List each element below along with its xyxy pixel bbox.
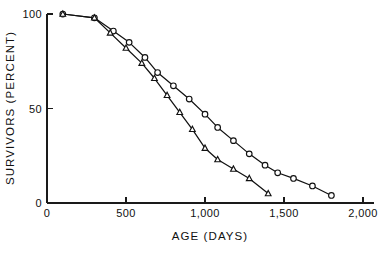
data-point-circle-5: [155, 70, 161, 76]
data-point-circle-8: [202, 111, 208, 117]
y-tick-label-0: 0: [35, 197, 42, 209]
data-point-circle-9: [215, 125, 221, 131]
series-triangle-series: [60, 11, 271, 196]
data-point-circle-15: [310, 183, 316, 189]
data-point-triangle-11: [231, 166, 237, 171]
data-point-triangle-12: [246, 175, 252, 180]
x-axis-title: AGE (DAYS): [172, 230, 249, 242]
chart-canvas: 050100 05001,0001,5002,000 AGE (DAYS) SU…: [0, 0, 386, 253]
x-tick-label-1500: 1,500: [269, 207, 299, 219]
series-circle-series: [60, 11, 334, 198]
series-path-triangle-series: [63, 14, 268, 194]
data-point-circle-16: [329, 193, 335, 199]
data-point-circle-14: [291, 176, 297, 182]
data-point-circle-13: [275, 170, 281, 176]
x-tick-label-500: 500: [116, 207, 136, 219]
x-axis-tick-labels: 05001,0001,5002,000: [44, 207, 378, 219]
x-tick-label-2000: 2,000: [348, 207, 378, 219]
data-point-circle-12: [262, 162, 268, 168]
data-point-circle-4: [142, 55, 148, 61]
x-tick-label-1000: 1,000: [190, 207, 220, 219]
data-series-layer: [60, 11, 334, 198]
data-point-circle-6: [171, 83, 177, 89]
series-path-circle-series: [63, 14, 332, 195]
y-axis-title: SURVIVORS (PERCENT): [4, 31, 16, 185]
y-tick-label-50: 50: [29, 103, 42, 115]
y-axis-ticks: [47, 14, 53, 203]
x-axis-ticks: [47, 197, 363, 203]
survival-chart-figure: 050100 05001,0001,5002,000 AGE (DAYS) SU…: [0, 0, 386, 253]
x-tick-label-0: 0: [44, 207, 51, 219]
data-point-circle-11: [246, 151, 252, 157]
y-axis-tick-labels: 050100: [22, 8, 42, 209]
data-point-circle-3: [126, 40, 132, 46]
data-point-circle-10: [231, 138, 237, 144]
y-tick-label-100: 100: [22, 8, 42, 20]
data-point-circle-7: [186, 96, 192, 102]
